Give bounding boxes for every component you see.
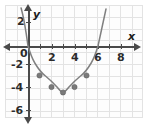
data-point — [60, 90, 65, 95]
data-point — [49, 84, 54, 89]
data-point — [84, 73, 89, 78]
parabola-graph-figure: 2 4 6 8 2 -2 -4 -6 0 x y — [0, 0, 148, 137]
data-point — [72, 84, 77, 89]
data-point — [37, 73, 42, 78]
parabola-curve-layer — [0, 0, 148, 137]
parabola-curve — [21, 8, 106, 93]
